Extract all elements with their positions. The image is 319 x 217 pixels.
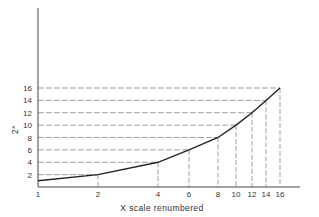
x-tick-label: 14: [262, 190, 271, 199]
x-tick-label: 1: [36, 190, 41, 199]
y-tick-label: 6: [28, 146, 33, 155]
x-axis-label: X scale renumbered: [120, 203, 203, 213]
y-tick-label: 14: [23, 96, 32, 105]
x-tick-label: 12: [248, 190, 257, 199]
y-tick-labels: 246810121416: [23, 84, 32, 180]
exponential-curve: [38, 88, 280, 181]
x-tick-label: 2: [96, 190, 101, 199]
x-tick-label: 10: [232, 190, 241, 199]
y-tick-label: 12: [23, 109, 32, 118]
y-tick-label: 2: [28, 171, 33, 180]
y-axis-label: 2x: [10, 125, 20, 134]
chart: 246810121416 1246810121416 2x X scale re…: [0, 0, 319, 217]
x-tick-label: 16: [276, 190, 285, 199]
y-tick-label: 16: [23, 84, 32, 93]
y-tick-label: 10: [23, 121, 32, 130]
y-tick-label: 8: [28, 134, 33, 143]
x-tick-label: 6: [187, 190, 192, 199]
x-tick-label: 4: [156, 190, 161, 199]
y-tick-label: 4: [28, 158, 33, 167]
x-tick-labels: 1246810121416: [36, 190, 285, 199]
x-tick-label: 8: [216, 190, 221, 199]
dashed-guide-lines: [38, 88, 280, 187]
